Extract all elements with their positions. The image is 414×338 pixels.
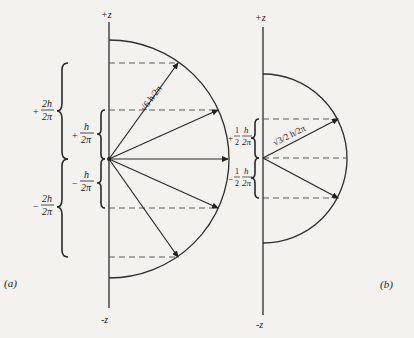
brace-minus-half [251, 158, 259, 198]
svg-text:+: + [72, 130, 78, 141]
svg-text:2π: 2π [42, 206, 53, 217]
axis-top-label-a: +z [101, 9, 112, 20]
brace-plus-half [251, 119, 259, 158]
svg-text:1: 1 [235, 126, 239, 135]
axis-bottom-label-b: -z [256, 319, 263, 330]
angular-momentum-vector-diagram: +z -z √6 h/2π + 2h 2π + [0, 0, 414, 338]
svg-text:2π: 2π [81, 134, 92, 145]
axis-top-label-b: +z [255, 12, 266, 23]
svg-text:−: − [33, 201, 39, 212]
svg-text:2: 2 [235, 138, 239, 147]
vector-arrow [109, 110, 218, 159]
svg-text:2h: 2h [42, 193, 52, 204]
panel-b: +z -z √3/2 h/2π + 1 2 h 2π − 1 2 h 2π [228, 12, 393, 330]
diagram-canvas: +z -z √6 h/2π + 2h 2π + [0, 0, 414, 338]
magnitude-label-a: √6 h/2π [139, 83, 164, 113]
axis-bottom-label-a: -z [101, 314, 108, 325]
svg-text:2π: 2π [81, 182, 92, 193]
z-label-plus-2h: + 2h 2π [33, 98, 54, 122]
z-label-minus-2h: − 2h 2π [33, 193, 54, 217]
svg-text:2: 2 [235, 179, 239, 188]
z-label-plus-h: + h 2π [72, 121, 94, 145]
svg-text:2π: 2π [42, 111, 53, 122]
brace-minus-2 [57, 159, 68, 257]
z-label-plus-half: + 1 2 h 2π [228, 125, 252, 147]
svg-text:1: 1 [235, 167, 239, 176]
svg-text:2h: 2h [42, 98, 52, 109]
z-label-minus-h: − h 2π [72, 169, 94, 193]
panel-a: +z -z √6 h/2π + 2h 2π + [4, 9, 229, 325]
svg-text:h: h [84, 169, 89, 180]
brace-minus-1 [97, 159, 105, 208]
svg-text:2π: 2π [242, 137, 252, 147]
svg-text:−: − [228, 174, 233, 184]
svg-text:2π: 2π [242, 178, 252, 188]
semicircle-b [263, 74, 347, 243]
svg-text:+: + [228, 133, 233, 143]
z-label-minus-half: − 1 2 h 2π [228, 166, 252, 188]
vector-arrow [109, 159, 218, 208]
svg-text:+: + [33, 106, 39, 117]
vector-arrow [263, 158, 338, 198]
origin-dot [107, 157, 111, 161]
svg-text:h: h [84, 121, 89, 132]
panel-label-a: (a) [4, 277, 17, 290]
panel-label-b: (b) [380, 278, 393, 291]
brace-plus-1 [97, 110, 105, 159]
svg-text:h: h [244, 125, 249, 135]
svg-text:−: − [72, 178, 78, 189]
svg-text:h: h [244, 166, 249, 176]
brace-plus-2 [57, 63, 68, 159]
